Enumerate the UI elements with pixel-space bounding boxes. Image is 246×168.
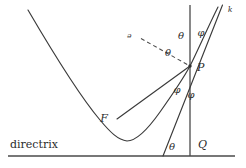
tangent-line: [163, 5, 223, 156]
normal-label: ᵊ: [127, 31, 132, 45]
point-p-marker: [188, 64, 191, 67]
point-p-label: P: [196, 61, 205, 74]
phi-right-label: φ: [187, 89, 194, 100]
phi-left-label: φ: [173, 84, 180, 95]
diagram-canvas: directrix F P Q ᵊ ᵏ θ θ θ φ φ φ: [0, 0, 246, 168]
parabola-figure: directrix F P Q ᵊ ᵏ θ θ θ φ φ φ: [0, 0, 246, 168]
phi-top-label: φ: [197, 27, 204, 38]
theta-upper-label: θ: [178, 30, 184, 41]
point-q-label: Q: [198, 138, 207, 151]
tangent-label: ᵏ: [228, 5, 233, 19]
theta-lower-label: θ: [169, 141, 175, 152]
theta-middle-label: θ: [165, 47, 171, 58]
focus-label: F: [99, 112, 108, 125]
directrix-label: directrix: [10, 138, 59, 151]
